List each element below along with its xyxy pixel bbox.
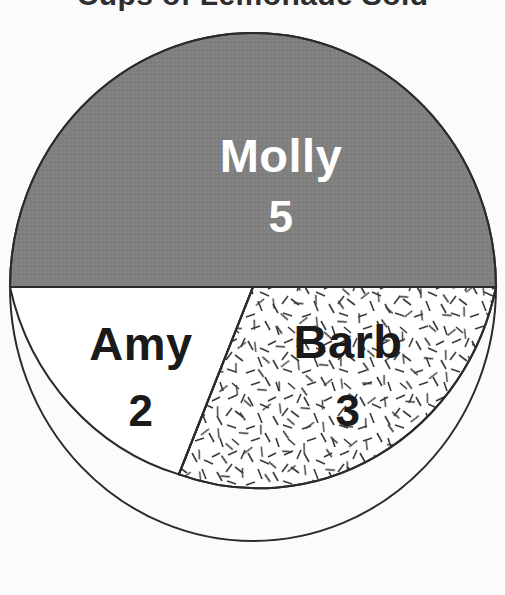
pie-chart-figure: Cups of Lemonade Sold (0, 0, 505, 595)
pie-slice-amy-label: Amy (89, 317, 192, 370)
pie-slice-molly-value: 5 (269, 192, 294, 241)
pie-slice-molly-label: Molly (220, 129, 343, 182)
pie-slice-barb-value: 3 (336, 386, 361, 435)
pie-chart-svg: Molly 5 Amy 2 Barb 3 (0, 0, 505, 595)
pie-slice-amy-value: 2 (129, 386, 154, 435)
pie-slice-molly[interactable]: Molly 5 (10, 33, 496, 287)
pie-slice-barb-label: Barb (293, 315, 402, 368)
